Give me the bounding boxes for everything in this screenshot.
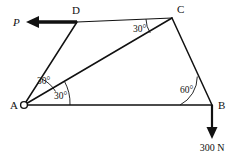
vertex-label-c: C — [177, 3, 184, 15]
pin-support-icon — [21, 102, 28, 109]
vertex-label-d: D — [72, 4, 80, 16]
angle-label-c: 30° — [133, 24, 147, 34]
force-label-p: P — [12, 16, 20, 28]
member-a-c — [24, 18, 172, 105]
angle-label-b: 60° — [180, 85, 194, 95]
force-label-300n: 300 N — [200, 142, 225, 153]
force-300n-arrow — [207, 105, 218, 139]
force-300n-arrowhead — [207, 127, 218, 139]
member-d-c — [77, 18, 172, 22]
force-p-arrowhead — [26, 16, 39, 28]
vertex-label-a: A — [10, 99, 18, 111]
vertex-label-b: B — [218, 99, 225, 111]
angle-label-a-upper: 30° — [37, 76, 51, 86]
force-p-arrow — [26, 16, 77, 28]
truss-diagram-figure: A B C D 30° 30° 30° 60° P 300 N — [0, 0, 237, 154]
angle-label-a-lower: 30° — [54, 91, 68, 101]
diagram-canvas: A B C D 30° 30° 30° 60° P 300 N — [0, 0, 237, 154]
